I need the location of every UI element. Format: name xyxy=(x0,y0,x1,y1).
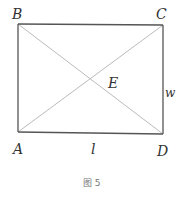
label-e: E xyxy=(107,75,118,91)
label-a: A xyxy=(11,141,23,157)
figure-caption: 图 5 xyxy=(83,178,101,188)
side-bc xyxy=(18,24,163,25)
label-c: C xyxy=(156,6,167,22)
label-length: l xyxy=(91,141,95,157)
diagram-canvas: B C A D E w l 图 5 xyxy=(0,0,183,202)
side-ad xyxy=(18,132,163,134)
label-d: D xyxy=(156,143,168,159)
label-width: w xyxy=(165,86,176,100)
label-b: B xyxy=(11,6,22,22)
